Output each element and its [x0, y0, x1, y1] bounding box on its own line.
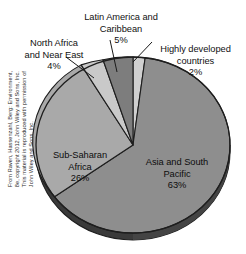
label-north-africa-text: North Africa and Near East: [25, 38, 84, 59]
label-sub-saharan-africa-percent: 26%: [71, 173, 89, 183]
label-asia-and-south-pacific: Asia and South Pacific 63%: [131, 146, 223, 191]
label-asia-text: Asia and South Pacific: [146, 157, 208, 178]
pie-chart-figure: From Raven, Hassenzahl, Berg: Environmen…: [0, 0, 246, 254]
label-highly-developed-countries: Highly developed countries 2%: [147, 33, 244, 89]
label-highly-developed-percent: 2%: [147, 67, 244, 78]
label-north-africa-and-near-east: North Africa and Near East 4%: [8, 27, 100, 83]
label-highly-developed-text: Highly developed countries: [160, 44, 231, 65]
label-sub-saharan-africa-text: Sub-Saharan Africa: [53, 150, 107, 171]
label-north-africa-percent: 4%: [8, 61, 100, 72]
label-asia-percent: 63%: [168, 180, 186, 190]
label-sub-saharan-africa: Sub-Saharan Africa 26%: [39, 139, 121, 184]
